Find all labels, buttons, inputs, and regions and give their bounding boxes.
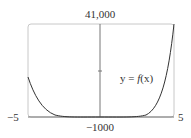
function-prefix: y = bbox=[120, 72, 137, 84]
x-max-label: 5 bbox=[178, 112, 184, 123]
plot-area bbox=[0, 0, 191, 138]
y-max-label: 41,000 bbox=[85, 9, 115, 20]
y-min-label: −1000 bbox=[86, 122, 114, 133]
function-label: y = f(x) bbox=[120, 73, 153, 84]
function-graph: 41,000 −1000 −5 5 y = f(x) bbox=[0, 0, 191, 138]
function-arg: (x) bbox=[140, 72, 153, 84]
x-min-label: −5 bbox=[7, 112, 19, 123]
